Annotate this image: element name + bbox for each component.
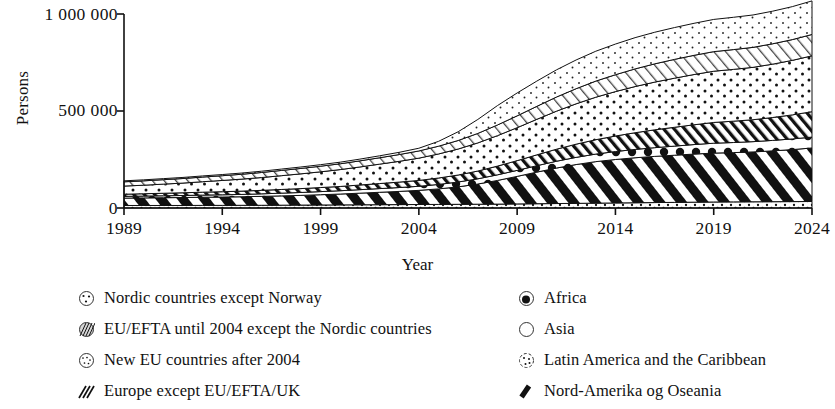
x-tick-2014: 2014 — [575, 218, 655, 239]
diagonal-stripes-icon — [78, 383, 95, 400]
x-tick-2009: 2009 — [477, 218, 557, 239]
legend-column-left: Nordic countries except NorwayEU/EFTA un… — [78, 284, 508, 408]
legend-item-label: Nordic countries except Norway — [104, 290, 322, 307]
legend-item[interactable]: Nord-Amerika og Oseania — [518, 377, 835, 405]
legend-item-label: Asia — [544, 321, 575, 338]
circle-open-icon — [518, 321, 535, 338]
legend-item-label: Latin America and the Caribbean — [544, 352, 766, 369]
legend-item-label: EU/EFTA until 2004 except the Nordic cou… — [104, 321, 432, 338]
stacked-area-chart — [0, 0, 835, 240]
circle-filled-dot-icon — [518, 290, 535, 307]
x-tick-2019: 2019 — [674, 218, 754, 239]
legend-column-right: AfricaAsiaLatin America and the Caribbea… — [518, 284, 835, 408]
figure-root: Persons 1 000 000 500 000 0 — [0, 0, 835, 409]
chart-legend: Nordic countries except NorwayEU/EFTA un… — [0, 284, 835, 409]
legend-item-label: Nord-Amerika og Oseania — [544, 383, 721, 400]
legend-item-label: Europe except EU/EFTA/UK — [104, 383, 300, 400]
x-tick-1994: 1994 — [182, 218, 262, 239]
plot-area: Persons 1 000 000 500 000 0 — [0, 0, 835, 285]
legend-item[interactable]: Nordic countries except Norway — [78, 284, 508, 312]
circle-fine-dots-icon — [78, 352, 95, 369]
legend-item[interactable]: Latin America and the Caribbean — [518, 346, 835, 374]
circle-sparse-dots-icon — [78, 290, 95, 307]
x-tick-2024: 2024 — [772, 218, 835, 239]
x-tick-1989: 1989 — [84, 218, 164, 239]
legend-item[interactable]: Asia — [518, 315, 835, 343]
legend-item-label: Africa — [544, 290, 587, 307]
x-axis-title: Year — [0, 255, 835, 275]
circle-diagonal-hatch-icon — [78, 321, 95, 338]
legend-item[interactable]: Africa — [518, 284, 835, 312]
x-tick-1999: 1999 — [281, 218, 361, 239]
x-tick-2004: 2004 — [379, 218, 459, 239]
legend-item-label: New EU countries after 2004 — [104, 352, 300, 369]
circle-scattered-dots-icon — [518, 352, 535, 369]
legend-item[interactable]: Europe except EU/EFTA/UK — [78, 377, 508, 405]
legend-item[interactable]: EU/EFTA until 2004 except the Nordic cou… — [78, 315, 508, 343]
legend-item[interactable]: New EU countries after 2004 — [78, 346, 508, 374]
bold-black-stripe-icon — [518, 383, 535, 400]
